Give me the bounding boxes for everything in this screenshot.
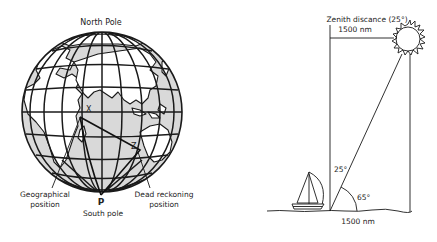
pole-p-label: P <box>98 197 105 207</box>
dead-reckoning-label-2: position <box>149 200 179 209</box>
altitude-angle-arc <box>341 187 357 211</box>
top-distance-label: 1500 nm <box>338 25 372 34</box>
sailboat-icon <box>292 172 324 209</box>
dead-reckoning-label-1: Dead reckoning <box>135 190 194 199</box>
sight-diagram: Zenith discance (25°) 1500 nm 25° 65° 15… <box>267 15 425 226</box>
bottom-distance-label: 1500 nm <box>341 217 375 226</box>
sight-line <box>330 54 402 211</box>
south-pole-label: South pole <box>83 209 124 218</box>
point-z-label: Z <box>131 142 137 151</box>
point-x-label: X <box>86 105 92 114</box>
zenith-angle-label: 25° <box>334 165 348 174</box>
horizon-line <box>267 209 412 212</box>
sun-icon <box>392 20 425 55</box>
altitude-angle-label: 65° <box>357 193 371 202</box>
globe: North Pole <box>20 18 194 218</box>
north-pole-label: North Pole <box>80 18 122 27</box>
geographical-position-label-1: Geographical <box>20 190 70 199</box>
zenith-distance-label: Zenith discance (25°) <box>326 15 407 24</box>
celestial-navigation-figure: North Pole <box>0 0 437 242</box>
geographical-position-label-2: position <box>30 200 60 209</box>
